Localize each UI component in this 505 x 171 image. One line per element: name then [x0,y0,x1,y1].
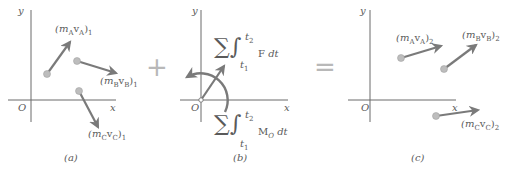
moment-impulse-expression: ∑∫ [214,113,241,135]
panel-c-x-label: x [452,103,458,113]
momentum-label-c1: (mCvC)1 [88,129,126,142]
momentum-label-a2: (mAvA)2 [396,33,434,46]
panel-a-origin-label: O [18,103,26,113]
panel-c-caption: (c) [411,153,424,163]
panel-b-origin-label: O [191,103,199,113]
panel-b-caption: (b) [233,153,247,163]
force-impulse-lower-limit: t1 [240,60,249,73]
panel-b-y-label: y [192,6,198,16]
moment-impulse-upper-limit: t2 [245,110,254,123]
plus-operator: + [146,54,168,80]
equals-operator: = [314,54,336,80]
moment-impulse-integrand: MO dt [258,127,288,140]
panel-a-y-label: y [18,6,24,16]
panel-a-x-label: x [110,103,116,113]
force-impulse-integrand: F dt [258,49,279,59]
momentum-label-c2: (mCvC)2 [461,119,499,132]
panel-c-origin-label: O [361,103,369,113]
moment-impulse-lower-limit: t1 [240,139,249,152]
momentum-label-b1: (mBvB)1 [100,76,138,89]
momentum-label-a1: (mAvA)1 [55,24,93,37]
panel-c-momentum-arrows [398,45,479,120]
momentum-label-b2: (mBvB)2 [462,30,500,43]
force-impulse-upper-limit: t2 [245,32,254,45]
panel-c-y-label: y [360,6,366,16]
panel-b-x-label: x [284,103,290,113]
force-impulse-expression: ∑∫ [214,36,241,58]
panel-a-caption: (a) [64,153,78,163]
